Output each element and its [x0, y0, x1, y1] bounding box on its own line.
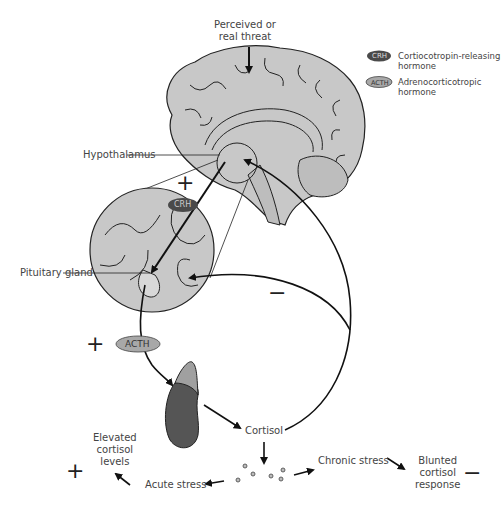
plus-sign-elevated: +	[66, 460, 84, 482]
plus-sign-acth: +	[86, 333, 104, 355]
chronic-stress-label: Chronic stress	[318, 455, 389, 467]
legend-acth-label: Adrenocorticotropichormone	[398, 77, 481, 97]
brain-illustration	[167, 46, 365, 225]
threat-label: Perceived or real threat	[214, 19, 276, 43]
acute-stress-label: Acute stress	[145, 479, 206, 491]
cortisol-molecules	[236, 464, 285, 482]
blunted-response-label: Blunted cortisol response	[415, 455, 460, 491]
legend-crh-label: Cortiocotropin-releasinghormone	[398, 51, 500, 71]
hypothalamus-label: Hypothalamus	[83, 149, 156, 161]
pituitary-label: Pituitary gland	[20, 267, 93, 279]
plus-sign-crh: +	[176, 172, 194, 194]
acth-label: ACTH	[125, 338, 150, 350]
elevated-cortisol-label: Elevated cortisol levels	[93, 432, 137, 468]
cortisol-label: Cortisol	[245, 425, 283, 437]
adrenal-gland	[165, 362, 198, 448]
crh-label: CRH	[174, 199, 191, 211]
minus-sign-feedback: −	[268, 282, 286, 304]
minus-sign-blunted: −	[463, 462, 481, 484]
legend-acth-abbr: ACTH	[371, 78, 389, 88]
legend-crh-abbr: CRH	[372, 51, 387, 61]
